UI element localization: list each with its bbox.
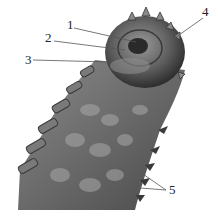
label-2: 2: [45, 31, 52, 44]
larva-figure: 1 2 3 4 5: [0, 0, 218, 220]
lip-fold: [110, 58, 150, 74]
label-4: 4: [202, 5, 209, 18]
label-5: 5: [169, 183, 176, 196]
leader-line-4: [172, 18, 203, 40]
mouth: [128, 38, 148, 54]
label-1: 1: [67, 18, 74, 31]
larva-illustration: [0, 0, 218, 220]
leader-line-5b: [140, 188, 166, 190]
label-3: 3: [25, 53, 32, 66]
